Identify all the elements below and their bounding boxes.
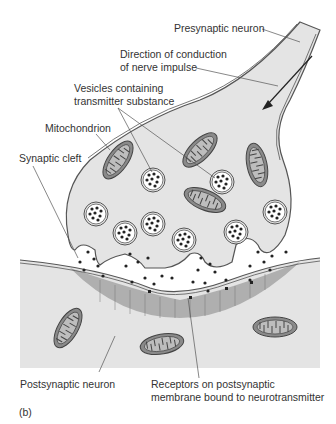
label-presynaptic-neuron: Presynaptic neuron	[174, 22, 264, 35]
mitochondrion-post-3	[253, 317, 297, 337]
panel-label: (b)	[19, 406, 32, 419]
label-postsynaptic-neuron: Postsynaptic neuron	[20, 378, 115, 391]
label-mitochondrion: Mitochondrion	[45, 122, 111, 135]
postsynaptic-neuron	[20, 258, 320, 368]
synapse-diagram: Presynaptic neuron Direction of conducti…	[0, 0, 336, 424]
label-receptors-line1: Receptors on postsynaptic	[151, 378, 275, 391]
label-vesicles-line2: transmitter substance	[74, 95, 174, 108]
label-synaptic-cleft: Synaptic cleft	[19, 152, 81, 165]
label-vesicles-line1: Vesicles containing	[74, 82, 163, 95]
label-direction-line1: Direction of conduction	[120, 48, 227, 61]
label-direction-line2: of nerve impulse	[120, 61, 197, 74]
label-receptors-line2: membrane bound to neurotransmitter	[151, 391, 324, 404]
